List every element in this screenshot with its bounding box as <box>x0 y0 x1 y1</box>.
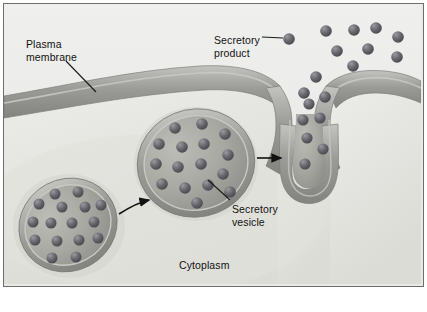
label-secretory-product-line1: Secretory <box>214 34 260 46</box>
label-cytoplasm: Cytoplasm <box>179 259 230 272</box>
diagram-plate: Plasmamembrane Secretoryproduct Secretor… <box>3 3 424 287</box>
label-secretory-vesicle: Secretoryvesicle <box>232 203 278 229</box>
cytoplasm-region-right <box>326 73 421 284</box>
label-plasma-membrane-line2: membrane <box>26 51 77 63</box>
label-secretory-vesicle-line2: vesicle <box>232 216 265 228</box>
figure-root: Plasmamembrane Secretoryproduct Secretor… <box>0 0 427 312</box>
label-secretory-product-line2: product <box>214 47 250 59</box>
label-plasma-membrane-line1: Plasma <box>26 38 62 50</box>
label-secretory-vesicle-line1: Secretory <box>232 203 278 215</box>
label-plasma-membrane: Plasmamembrane <box>26 38 77 64</box>
label-secretory-product: Secretoryproduct <box>214 34 260 60</box>
